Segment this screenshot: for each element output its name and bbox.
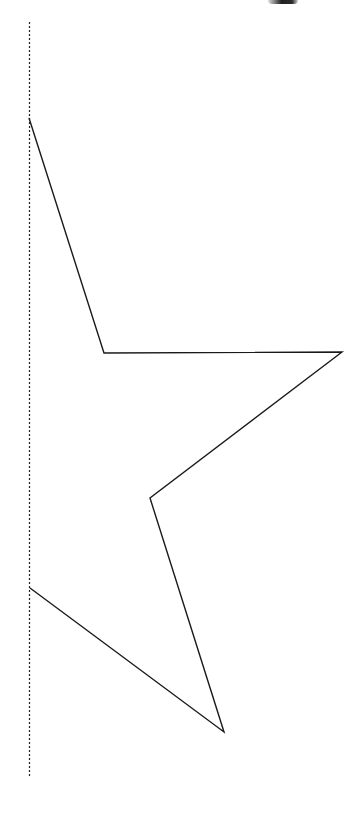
drawing-surface[interactable] [0, 0, 364, 825]
cropped-pen-stroke-mark [268, 0, 298, 4]
drawing-canvas[interactable] [0, 0, 364, 825]
half-star-polyline[interactable] [29, 118, 342, 732]
